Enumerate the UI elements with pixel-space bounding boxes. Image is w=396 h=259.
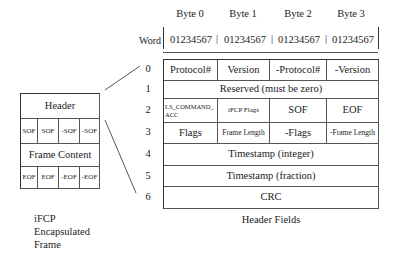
connector-lines bbox=[0, 0, 396, 259]
connector-line-bottom bbox=[105, 120, 136, 193]
connector-line-top bbox=[105, 66, 140, 90]
